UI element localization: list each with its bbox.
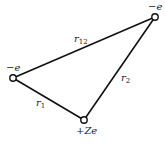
electron1-node-icon [10,75,16,81]
r12-sub: 12 [79,38,88,46]
triangle-figure [0,0,165,144]
edge-r1 [13,78,84,120]
r2-sub: 2 [126,77,130,85]
electron1-label: −e [6,63,20,73]
diagram-canvas: −e −e +Ze r12 r1 r2 [0,0,165,144]
nucleus-node-icon [81,117,87,123]
r1-sub: 1 [41,102,45,110]
r12-label: r12 [74,34,88,46]
electron2-node-icon [152,14,158,20]
electron2-label: −e [148,2,162,12]
r2-label: r2 [121,73,130,85]
nucleus-label: +Ze [76,126,97,136]
r1-label: r1 [36,98,45,110]
